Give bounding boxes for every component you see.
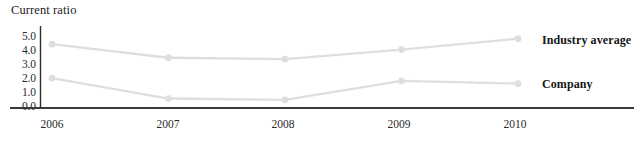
data-point-marker [49, 75, 56, 82]
data-point-marker [398, 46, 405, 53]
series-segment [169, 99, 286, 100]
data-point-marker [49, 41, 56, 48]
series-segment [402, 81, 519, 84]
series-layer [49, 35, 522, 103]
series-segment [169, 58, 286, 59]
series-segment [402, 39, 519, 50]
data-point-marker [165, 95, 172, 102]
data-point-marker [282, 97, 289, 104]
data-point-marker [515, 80, 522, 87]
data-point-marker [398, 77, 405, 84]
data-point-marker [282, 56, 289, 63]
series-segment [52, 44, 169, 58]
plot-area [0, 0, 642, 143]
data-point-marker [165, 54, 172, 61]
series-segment [285, 81, 402, 100]
series-company [49, 75, 522, 104]
series-segment [285, 50, 402, 60]
series-industry-average [49, 35, 522, 62]
series-segment [52, 78, 169, 98]
current-ratio-line-chart: Current ratio 5.0 4.0 3.0 2.0 1.0 0.0 20… [0, 0, 642, 143]
data-point-marker [515, 35, 522, 42]
